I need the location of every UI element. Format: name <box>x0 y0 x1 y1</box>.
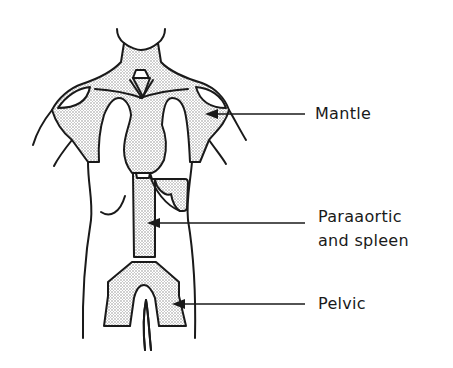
pelvic-field <box>104 262 186 350</box>
label-paraaortic-line2: and spleen <box>318 231 409 250</box>
pelvic-leader <box>172 299 305 309</box>
label-mantle: Mantle <box>315 104 371 123</box>
paraaortic-field <box>133 173 188 257</box>
torso-diagram <box>0 0 453 368</box>
mantle-field <box>52 43 229 173</box>
paraaortic-leader <box>147 218 305 228</box>
label-paraaortic-line1: Paraaortic <box>318 207 402 226</box>
label-pelvic: Pelvic <box>318 294 366 313</box>
